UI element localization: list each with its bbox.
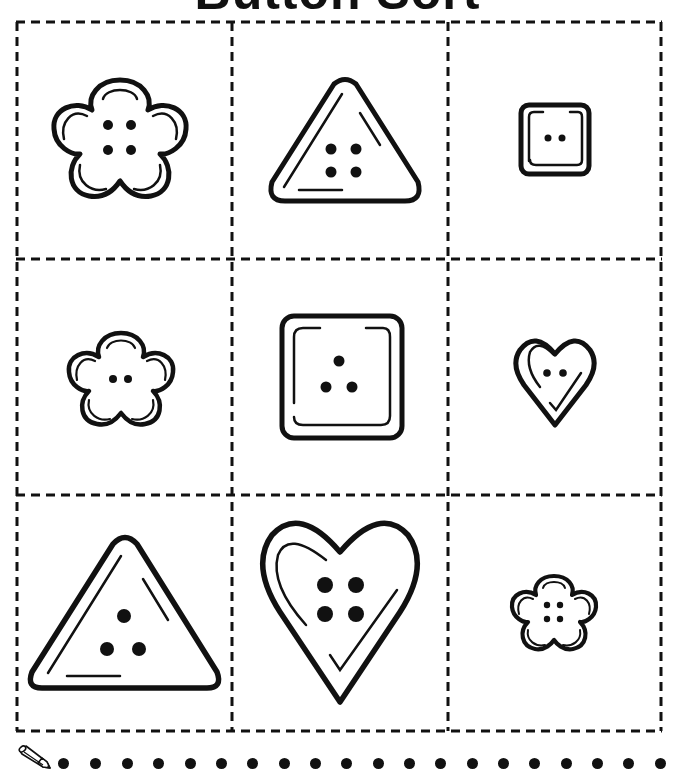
tracing-line [0, 742, 675, 772]
trace-dot [310, 758, 321, 769]
pencil-icon [16, 744, 52, 770]
trace-dot [592, 758, 603, 769]
trace-dot [279, 758, 290, 769]
trace-dot [247, 758, 258, 769]
trace-dot [655, 758, 666, 769]
trace-dot [122, 758, 133, 769]
trace-dot [623, 758, 634, 769]
button-flower-small-4-holes[interactable] [0, 0, 675, 775]
trace-dot [90, 758, 101, 769]
trace-dot [58, 758, 69, 769]
trace-dot [185, 758, 196, 769]
trace-dot [153, 758, 164, 769]
trace-dot [529, 758, 540, 769]
trace-dot [341, 758, 352, 769]
trace-dot [404, 758, 415, 769]
trace-dot [435, 758, 446, 769]
trace-dot [498, 758, 509, 769]
trace-dot [373, 758, 384, 769]
trace-dot [561, 758, 572, 769]
trace-dot [216, 758, 227, 769]
trace-dot [467, 758, 478, 769]
